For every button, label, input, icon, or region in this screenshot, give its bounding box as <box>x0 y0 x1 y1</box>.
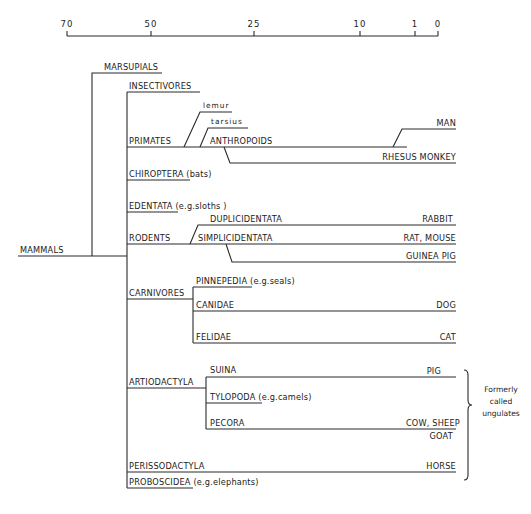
tick-label: 25 <box>248 19 261 29</box>
label-artiodactyla: ARTIODACTYLA <box>129 378 194 386</box>
label-pig: PIG <box>427 367 441 375</box>
label-canidae: CANIDAE <box>196 301 234 309</box>
label-chiroptera: CHIROPTERA (bats) <box>129 170 212 178</box>
label-rhesus-monkey: RHESUS MONKEY <box>382 153 456 161</box>
label-perissodactyla: PERISSODACTYLA <box>129 462 205 470</box>
label-lemur: lemur <box>203 102 230 109</box>
label-tylopoda: TYLOPODA (e.g.camels) <box>210 393 312 401</box>
label-cat: CAT <box>440 333 456 341</box>
label-pinnepedia: PINNEPEDIA (e.g.seals) <box>196 277 295 285</box>
label-mammals: MAMMALS <box>20 246 64 254</box>
label-rodents: RODENTS <box>129 234 170 242</box>
annotation-line: called <box>476 396 526 408</box>
tick-label: 0 <box>435 19 441 29</box>
label-pecora: PECORA <box>210 419 244 427</box>
label-carnivores: CARNIVORES <box>129 289 185 297</box>
ungulates-annotation: Formerly called ungulates <box>476 384 526 420</box>
tick-label: 10 <box>354 19 367 29</box>
label-man: MAN <box>437 119 456 127</box>
tick-label: 1 <box>412 19 418 29</box>
time-axis <box>67 31 438 36</box>
label-duplicidentata: DUPLICIDENTATA <box>210 215 282 223</box>
label-rabbit: RABBIT <box>422 215 453 223</box>
label-dog: DOG <box>436 301 456 309</box>
label-horse: HORSE <box>426 462 456 470</box>
branch-man <box>393 129 456 147</box>
label-suina: SUINA <box>210 366 236 374</box>
label-edentata: EDENTATA (e.g.sloths ) <box>129 202 227 210</box>
label-proboscidea: PROBOSCIDEA (e.g.elephants) <box>129 478 259 486</box>
label-insectivores: INSECTIVORES <box>129 82 191 90</box>
tick-label: 50 <box>145 19 158 29</box>
annotation-line: Formerly <box>476 384 526 396</box>
label-primates: PRIMATES <box>129 137 171 145</box>
label-guinea-pig: GUINEA PIG <box>406 252 456 260</box>
tick-label: 70 <box>61 19 74 29</box>
label-anthropoids: ANTHROPOIDS <box>210 137 273 145</box>
label-felidae: FELIDAE <box>196 333 231 341</box>
label-goat: GOAT <box>430 432 453 440</box>
label-tarsius: tarsius <box>211 118 243 125</box>
label-simplicidentata: SIMPLICIDENTATA <box>198 234 273 242</box>
label-marsupials: MARSUPIALS <box>104 63 158 71</box>
label-rat-mouse: RAT, MOUSE <box>404 234 456 242</box>
annotation-line: ungulates <box>476 408 526 420</box>
ungulates-brace <box>464 370 472 480</box>
label-cow-sheep: COW, SHEEP <box>406 419 460 427</box>
